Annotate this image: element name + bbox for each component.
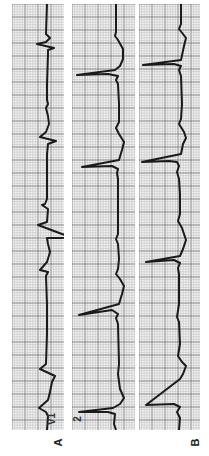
lead-label-v1: V1 xyxy=(47,413,57,425)
ecg-strip-2 xyxy=(72,4,135,430)
lead-label-2: 2 xyxy=(73,416,83,422)
ecg-strip-b xyxy=(139,4,200,430)
ecg-trace-a xyxy=(12,4,64,430)
ecg-trace-2 xyxy=(72,4,135,430)
ecg-strip-a xyxy=(12,4,64,430)
panel-label-b: B xyxy=(190,439,201,447)
ecg-trace-b xyxy=(139,4,200,430)
panel-label-a: A xyxy=(53,439,64,447)
